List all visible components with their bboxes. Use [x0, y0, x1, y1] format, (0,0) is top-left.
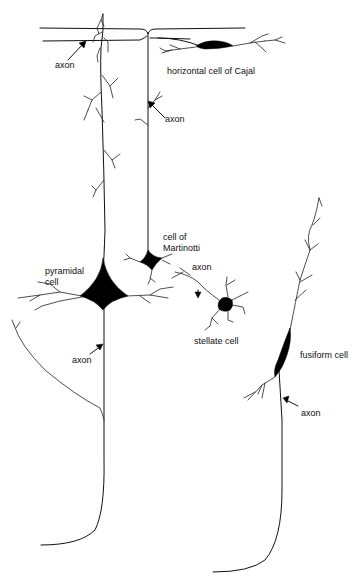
label-axon-martinotti: axon: [165, 114, 185, 124]
fusiform-cell: [213, 198, 322, 572]
pyramidal-apical-dendrite: [84, 14, 120, 272]
label-axon-stellate: axon: [192, 262, 212, 272]
neuron-diagram: [0, 0, 363, 582]
label-cell-of-martinotti-line1: cell of: [163, 232, 187, 242]
label-stellate-cell: stellate cell: [194, 336, 239, 346]
stellate-cell: [172, 268, 248, 330]
pyramidal-cell: [12, 258, 173, 545]
label-axon-fusiform: axon: [301, 408, 321, 418]
label-fusiform-cell: fusiform cell: [300, 350, 348, 360]
horizontal-cell-of-cajal: [158, 34, 285, 53]
label-arrows: [68, 41, 298, 406]
label-pyramidal-cell-line1: pyramidal: [45, 266, 84, 276]
label-pyramidal-cell-line2: cell: [45, 277, 59, 287]
label-cell-of-martinotti-line2: Martinotti: [163, 243, 200, 253]
label-horizontal-cell-of-cajal: horizontal cell of Cajal: [167, 66, 255, 76]
label-axon-pyramidal: axon: [72, 355, 92, 365]
label-axon-horizontal: axon: [55, 60, 75, 70]
